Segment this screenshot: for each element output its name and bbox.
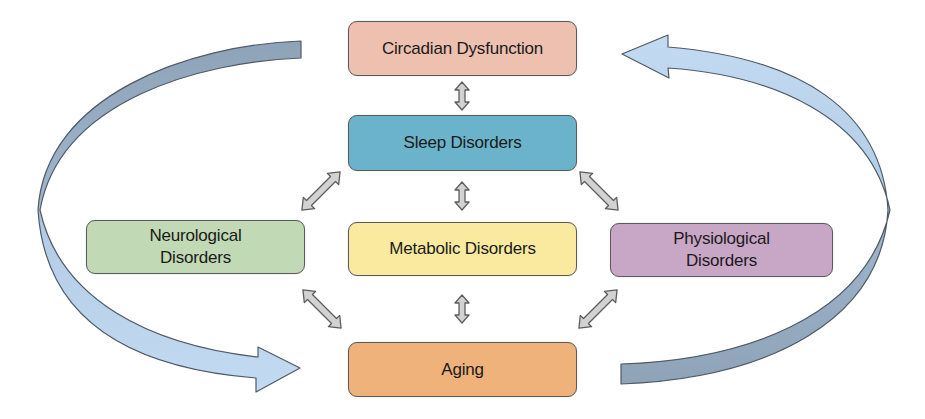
diagram-canvas: Circadian Dysfunction Sleep Disorders Ne… [0, 0, 925, 419]
node-aging: Aging [348, 342, 577, 397]
node-sleep-disorders: Sleep Disorders [348, 115, 577, 171]
node-physiological-disorders: Physiological Disorders [610, 223, 833, 277]
node-label: Sleep Disorders [404, 132, 522, 154]
double-arrow-sleep-neurological-icon [296, 166, 345, 215]
double-arrow-physiological-aging-icon [573, 284, 622, 333]
node-neurological-disorders: Neurological Disorders [86, 220, 305, 274]
node-metabolic-disorders: Metabolic Disorders [348, 222, 577, 276]
double-arrow-metabolic-aging-icon [455, 295, 469, 323]
node-label: Aging [441, 359, 483, 381]
node-circadian-dysfunction: Circadian Dysfunction [348, 21, 577, 76]
node-label-line1: Neurological [149, 225, 241, 247]
double-arrow-circadian-sleep-icon [455, 82, 469, 110]
node-label-line2: Disorders [160, 247, 231, 269]
curved-arrow-right-icon [621, 35, 890, 384]
node-label: Circadian Dysfunction [382, 38, 543, 60]
node-label-line2: Disorders [686, 250, 757, 272]
curved-arrow-left-icon [38, 41, 301, 392]
node-label: Metabolic Disorders [389, 238, 535, 260]
double-arrow-sleep-metabolic-icon [455, 182, 469, 210]
double-arrow-sleep-physiological-icon [574, 166, 623, 215]
double-arrow-neurological-aging-icon [297, 284, 346, 333]
node-label-line1: Physiological [673, 228, 770, 250]
